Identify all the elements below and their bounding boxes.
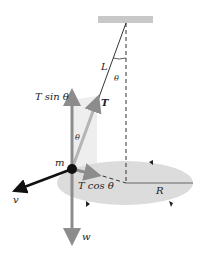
direction-arrow-icon	[86, 201, 90, 207]
label-t-sin: T sin θ	[35, 91, 69, 102]
ceiling-support	[98, 16, 153, 23]
label-angle-side: θ	[75, 133, 80, 142]
angle-arc-top	[113, 58, 126, 59]
label-mass: m	[55, 157, 64, 168]
mass-bob	[67, 164, 77, 174]
label-velocity: v	[13, 194, 19, 205]
label-length: L	[100, 61, 108, 72]
label-radius: R	[155, 185, 164, 196]
label-t-cos: T cos θ	[78, 180, 114, 191]
direction-arrow-icon	[169, 201, 173, 207]
label-tension: T	[101, 97, 110, 108]
label-angle-top: θ	[114, 74, 119, 83]
conical-pendulum-diagram: L θ T T sin θ θ m T cos θ v R w	[0, 0, 207, 253]
label-weight: w	[82, 231, 91, 242]
